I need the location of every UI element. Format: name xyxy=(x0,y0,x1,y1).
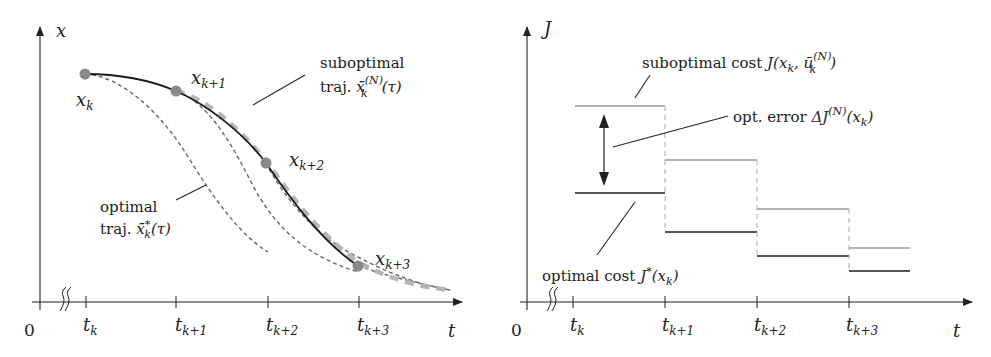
left-panel: x t 0 xk xk+1 xk+2 xk+3 tk tk+1 tk+2 tk+… xyxy=(24,20,462,341)
diagram-canvas: x t 0 xk xk+1 xk+2 xk+3 tk tk+1 tk+2 tk+… xyxy=(0,0,991,357)
right-tick-tk2: tk+2 xyxy=(754,314,786,338)
right-panel: J t 0 tk tk+1 tk+2 tk+3 suboptimal cost … xyxy=(511,18,972,341)
opt-error-label: opt. error ΔJ(N)(xk) xyxy=(733,105,873,129)
right-tick-tk: tk xyxy=(570,314,585,338)
label-xk3: xk+3 xyxy=(375,248,410,272)
left-tick-tk1: tk+1 xyxy=(175,314,207,338)
suboptimal-cost-label: suboptimal cost J(xk, ū(N)k) xyxy=(642,50,836,76)
optimal-cost-leader xyxy=(597,202,635,255)
optimal-traj-label-line2: traj. x̄*k(τ) xyxy=(100,218,171,241)
right-tick-tk3: tk+3 xyxy=(846,314,879,338)
right-origin-label: 0 xyxy=(511,320,522,340)
left-tick-tk: tk xyxy=(83,314,98,338)
suboptimal-cost-steps xyxy=(575,106,910,248)
step-connectors xyxy=(665,106,849,271)
point-xk2 xyxy=(261,158,272,169)
right-tick-tk1: tk+1 xyxy=(662,314,694,338)
point-xk3 xyxy=(353,261,364,272)
left-tick-tk2: tk+2 xyxy=(266,314,298,338)
suboptimal-traj-label-line2: traj. x̄(N)k(τ) xyxy=(320,74,402,100)
left-y-axis-label: x xyxy=(56,20,66,41)
left-x-axis-label: t xyxy=(448,320,456,341)
suboptimal-leader-line xyxy=(253,75,305,105)
label-xk2: xk+2 xyxy=(289,149,324,173)
left-origin-label: 0 xyxy=(24,320,35,340)
point-xk xyxy=(80,69,91,80)
axis-break-icon xyxy=(60,287,71,311)
optimal-leader-line xyxy=(176,185,206,200)
label-xk: xk xyxy=(76,89,93,113)
optimal-cost-steps xyxy=(575,193,910,271)
opt-error-leader xyxy=(613,116,728,147)
point-xk1 xyxy=(171,86,182,97)
suboptimal-cost-leader xyxy=(635,75,650,98)
optimal-cost-label: optimal cost J*(xk) xyxy=(542,265,679,288)
left-tick-tk3: tk+3 xyxy=(357,314,390,338)
label-xk1: xk+1 xyxy=(191,67,226,91)
optimal-traj-label-line1: optimal xyxy=(100,198,158,216)
right-x-axis-label: t xyxy=(953,320,961,341)
opt-error-double-arrow xyxy=(599,114,609,186)
right-y-axis-label: J xyxy=(540,18,553,39)
axis-break-icon xyxy=(547,287,558,311)
suboptimal-traj-label-line1: suboptimal xyxy=(320,54,405,72)
